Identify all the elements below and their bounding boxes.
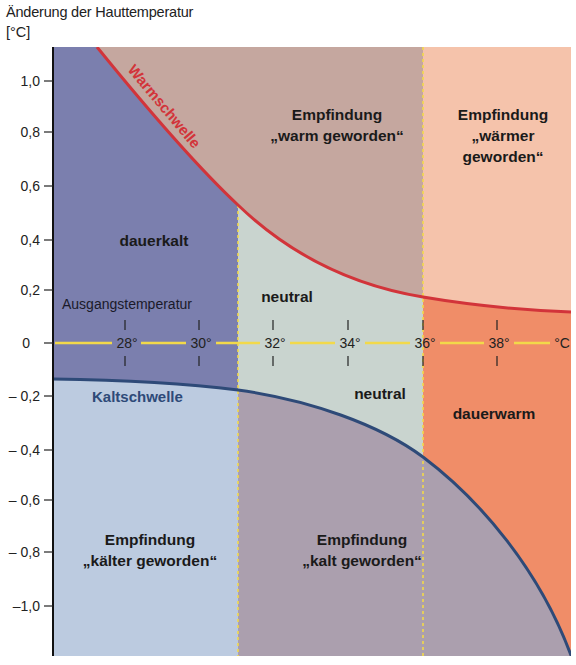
x-tick-label: °C (554, 335, 570, 351)
kaelter-geworden-line2: „kälter geworden“ (83, 552, 217, 569)
y-tick-label: 0 (22, 335, 30, 351)
y-tick-label: – 0,4 (9, 442, 40, 458)
kaltschwelle-label: Kaltschwelle (92, 388, 183, 405)
x-tick-label: 38° (488, 335, 509, 351)
kalt-geworden-line1: Empfindung (317, 531, 407, 548)
dauerwarm-label: dauerwarm (453, 405, 536, 422)
x-tick-label: 30° (190, 335, 211, 351)
y-tick-label: – 0,2 (9, 388, 40, 404)
y-tick-label: – 0,8 (9, 544, 40, 560)
neutral-upper-label: neutral (261, 288, 313, 305)
x-axis-title: Ausgangstemperatur (62, 296, 192, 312)
kaelter-geworden-line1: Empfindung (105, 531, 195, 548)
waermer-geworden-line1: Empfindung (458, 106, 548, 123)
chart-canvas: 1,0 0,8 0,6 0,4 0,2 0 – 0,2 – 0,4 – 0,6 … (0, 0, 576, 665)
x-tick-label: 36° (414, 335, 435, 351)
neutral-lower-label: neutral (354, 385, 406, 402)
y-tick-label: – 0,6 (9, 492, 40, 508)
y-tick-label: 0,4 (21, 232, 41, 248)
x-tick-label: 34° (339, 335, 360, 351)
warm-geworden-line2: „warm geworden“ (270, 127, 404, 144)
y-tick-label: 1,0 (21, 73, 41, 89)
warm-geworden-line1: Empfindung (292, 106, 382, 123)
y-tick-label: 0,2 (21, 282, 41, 298)
dauerkalt-label: dauerkalt (120, 232, 189, 249)
y-tick-marks (44, 81, 53, 606)
x-tick-label: 32° (264, 335, 285, 351)
waermer-geworden-line3: geworden“ (463, 148, 544, 165)
waermer-geworden-line2: „wärmer (472, 127, 535, 144)
region-waermer-geworden (423, 47, 571, 312)
x-tick-label: 28° (116, 335, 137, 351)
kalt-geworden-line2: „kalt geworden“ (302, 552, 422, 569)
y-tick-labels: 1,0 0,8 0,6 0,4 0,2 0 – 0,2 – 0,4 – 0,6 … (9, 73, 40, 614)
y-tick-label: 0,8 (21, 124, 41, 140)
region-kaelter-geworden (53, 379, 238, 656)
y-tick-label: –1,0 (13, 598, 40, 614)
y-tick-label: 0,6 (21, 178, 41, 194)
